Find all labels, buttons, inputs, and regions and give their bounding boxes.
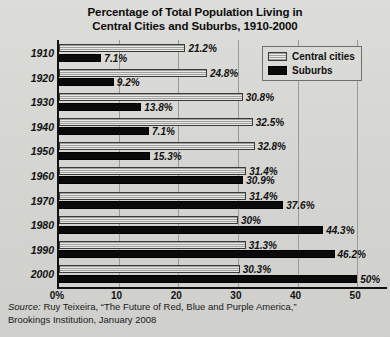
- bar-suburbs-1970: 37.6%: [59, 201, 283, 209]
- bar-suburbs-1950: 15.3%: [59, 152, 150, 160]
- chart-title: Percentage of Total Population Living in…: [0, 0, 390, 33]
- bar-slot: 13.8%: [59, 103, 141, 111]
- bar-central-cities-1970: 31.4%: [59, 192, 246, 200]
- bar-slot: 7.1%: [59, 127, 149, 135]
- bar-suburbs-1940: 7.1%: [59, 127, 149, 135]
- chart-title-line-1: Percentage of Total Population Living in: [10, 5, 380, 19]
- legend-label-central-cities: Central cities: [292, 51, 355, 62]
- bar-slot: 31.4%: [59, 192, 246, 200]
- bar-slot: 50%: [59, 275, 357, 283]
- bar-slot: 30%: [59, 216, 238, 224]
- legend-item-suburbs: Suburbs: [268, 65, 355, 76]
- bar-central-cities-2000: 30.3%: [59, 265, 240, 273]
- bar-slot: 9.2%: [59, 78, 114, 86]
- year-label-1940: 1940: [4, 118, 54, 136]
- bar-central-cities-1930: 30.8%: [59, 93, 243, 101]
- bar-slot: 37.6%: [59, 201, 283, 209]
- bar-value-label: 7.1%: [104, 52, 127, 63]
- bar-value-label: 50%: [360, 273, 380, 284]
- bar-slot: 7.1%: [59, 54, 101, 62]
- year-label-1980: 1980: [4, 216, 54, 234]
- legend-item-central-cities: Central cities: [268, 51, 355, 62]
- bar-value-label: 30.3%: [243, 264, 271, 275]
- year-label-1930: 1930: [4, 93, 54, 111]
- bar-slot: 30.3%: [59, 265, 240, 273]
- bar-central-cities-1960: 31.4%: [59, 167, 246, 175]
- bar-suburbs-1980: 44.3%: [59, 226, 323, 234]
- bar-value-label: 44.3%: [326, 224, 354, 235]
- bar-slot: 32.5%: [59, 118, 253, 126]
- year-label-1970: 1970: [4, 192, 54, 210]
- year-label-1960: 1960: [4, 167, 54, 185]
- year-label-1910: 1910: [4, 44, 54, 62]
- legend-swatch-central-cities-icon: [268, 52, 287, 61]
- decade-row: 194032.5%7.1%: [59, 115, 387, 140]
- legend-label-suburbs: Suburbs: [292, 65, 333, 76]
- year-label-2000: 2000: [4, 265, 54, 283]
- bar-central-cities-1980: 30%: [59, 216, 238, 224]
- bar-value-label: 32.8%: [258, 141, 286, 152]
- bar-suburbs-1910: 7.1%: [59, 54, 101, 62]
- decade-row: 193030.8%13.8%: [59, 90, 387, 115]
- bar-value-label: 32.5%: [256, 116, 284, 127]
- bar-slot: 32.8%: [59, 142, 255, 150]
- bar-suburbs-1990: 46.2%: [59, 250, 335, 258]
- chart-figure: Percentage of Total Population Living in…: [0, 0, 390, 337]
- bar-value-label: 7.1%: [152, 126, 175, 137]
- decade-row: 199031.3%46.2%: [59, 238, 387, 263]
- decade-row: 198030%44.3%: [59, 213, 387, 238]
- bar-central-cities-1920: 24.8%: [59, 69, 207, 77]
- year-label-1950: 1950: [4, 142, 54, 160]
- bar-slot: 24.8%: [59, 69, 207, 77]
- decade-row: 196031.4%30.9%: [59, 164, 387, 189]
- chart-legend: Central cities Suburbs: [262, 46, 362, 81]
- bar-slot: 31.4%: [59, 167, 246, 175]
- bar-value-label: 30.8%: [246, 92, 274, 103]
- bar-slot: 15.3%: [59, 152, 150, 160]
- bar-value-label: 46.2%: [338, 249, 366, 260]
- source-line-2: Brookings Institution, January 2008: [8, 314, 156, 325]
- source-lead: Source:: [8, 301, 41, 312]
- bar-suburbs-2000: 50%: [59, 275, 357, 283]
- bar-suburbs-1930: 13.8%: [59, 103, 141, 111]
- year-label-1990: 1990: [4, 241, 54, 259]
- bar-central-cities-1990: 31.3%: [59, 241, 246, 249]
- bar-value-label: 9.2%: [117, 77, 140, 88]
- bar-value-label: 31.3%: [249, 239, 277, 250]
- bar-value-label: 30.9%: [246, 175, 274, 186]
- legend-swatch-suburbs-icon: [268, 66, 287, 75]
- source-line-1: Ruy Teixeira, “The Future of Red, Blue a…: [41, 301, 297, 312]
- source-note: Source: Ruy Teixeira, “The Future of Red…: [8, 300, 384, 326]
- bar-suburbs-1960: 30.9%: [59, 176, 243, 184]
- bar-value-label: 13.8%: [144, 101, 172, 112]
- decade-row: 197031.4%37.6%: [59, 189, 387, 214]
- bar-slot: 21.2%: [59, 44, 185, 52]
- decade-row: 195032.8%15.3%: [59, 139, 387, 164]
- bar-value-label: 15.3%: [153, 150, 181, 161]
- bar-slot: 30.9%: [59, 176, 243, 184]
- bar-value-label: 31.4%: [249, 190, 277, 201]
- bar-central-cities-1950: 32.8%: [59, 142, 255, 150]
- bar-slot: 46.2%: [59, 250, 335, 258]
- bar-value-label: 37.6%: [286, 200, 314, 211]
- bar-value-label: 21.2%: [188, 43, 216, 54]
- year-label-1920: 1920: [4, 69, 54, 87]
- bar-slot: 31.3%: [59, 241, 246, 249]
- bar-central-cities-1940: 32.5%: [59, 118, 253, 126]
- bar-value-label: 24.8%: [210, 67, 238, 78]
- bar-value-label: 30%: [241, 215, 261, 226]
- bar-slot: 30.8%: [59, 93, 243, 101]
- bar-slot: 44.3%: [59, 226, 323, 234]
- chart-title-line-2: Central Cities and Suburbs, 1910-2000: [10, 19, 380, 33]
- bar-suburbs-1920: 9.2%: [59, 78, 114, 86]
- decade-row: 200030.3%50%: [59, 262, 387, 287]
- bar-central-cities-1910: 21.2%: [59, 44, 185, 52]
